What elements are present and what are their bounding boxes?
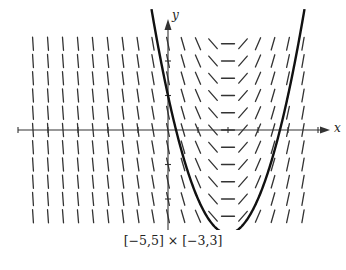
slope-segment [137, 106, 139, 119]
slope-segment [209, 91, 218, 101]
slope-segment [302, 55, 304, 68]
slope-segment [92, 89, 93, 102]
slope-segment [209, 194, 218, 204]
slope-segment [209, 39, 218, 49]
slope-segment [152, 158, 154, 171]
slope-segment [77, 55, 78, 68]
slope-segment [122, 193, 124, 206]
slope-segment [137, 158, 139, 171]
slope-segment [255, 72, 260, 84]
slope-segment [287, 141, 290, 154]
y-axis-label: y [172, 8, 179, 22]
slope-segment [77, 175, 78, 188]
slope-segment [48, 37, 49, 50]
slope-segment [122, 55, 124, 68]
slope-segment [137, 141, 139, 154]
slope-segment [92, 55, 93, 68]
slope-segment [77, 37, 78, 50]
slope-segment [92, 106, 93, 119]
slope-segment [209, 160, 218, 170]
slope-segment [77, 158, 78, 171]
slope-segment [181, 89, 185, 101]
slope-segment [195, 90, 200, 102]
slope-segment [195, 107, 200, 119]
slope-segment [255, 38, 260, 50]
slope-segment [48, 141, 49, 154]
slope-segment [122, 141, 124, 154]
slope-segment [33, 55, 34, 68]
slope-segment [181, 193, 185, 205]
slope-segment [271, 72, 275, 84]
slope-segment [62, 89, 63, 102]
slope-segment [302, 141, 304, 154]
slope-segment [302, 89, 304, 102]
slope-segment [209, 56, 218, 66]
slope-segment [107, 175, 108, 188]
slope-segment [152, 37, 154, 50]
slope-segment [181, 38, 185, 50]
slope-segment [77, 210, 78, 223]
slope-segment [195, 159, 200, 171]
slope-segment [302, 175, 304, 188]
slope-segment [62, 55, 63, 68]
slope-segment [107, 158, 108, 171]
slope-segment [33, 106, 34, 119]
slope-segment [302, 158, 304, 171]
slope-segment [33, 141, 34, 154]
slope-segment [122, 158, 124, 171]
slope-segment [77, 106, 78, 119]
slope-segment [239, 39, 248, 49]
slope-segment [271, 89, 275, 101]
slope-segment [209, 73, 218, 83]
slope-segment [107, 106, 108, 119]
slope-segment [92, 141, 93, 154]
slope-segment [137, 210, 139, 223]
slope-segment [62, 193, 63, 206]
slope-segment [137, 175, 139, 188]
slope-segment [137, 89, 139, 102]
slope-segment [195, 72, 200, 84]
slope-segment [239, 73, 248, 83]
slope-segment [92, 210, 93, 223]
slope-segment [92, 158, 93, 171]
slope-segment [152, 72, 154, 85]
slope-segment [152, 89, 154, 102]
slope-segment [122, 89, 124, 102]
slope-segment [195, 141, 200, 153]
slope-segment [33, 158, 34, 171]
slope-segment [92, 37, 93, 50]
slope-segment [181, 176, 185, 188]
slope-segment [137, 55, 139, 68]
slope-segment [122, 72, 124, 85]
slope-segment [33, 175, 34, 188]
slope-segment [152, 106, 154, 119]
slope-segment [271, 55, 275, 67]
slope-segment [122, 210, 124, 223]
slope-segment [287, 193, 290, 206]
slope-segment [239, 177, 248, 187]
slope-segment [33, 37, 34, 50]
slope-segment [122, 175, 124, 188]
slope-segment [287, 106, 290, 119]
slope-segment [137, 37, 139, 50]
slope-segment [287, 72, 290, 85]
slope-segment [195, 176, 200, 188]
slope-segment [209, 177, 218, 187]
slope-segment [239, 91, 248, 101]
slope-segment [152, 175, 154, 188]
slope-segment [239, 194, 248, 204]
slope-segment [33, 72, 34, 85]
slope-segment [92, 175, 93, 188]
slope-segment [152, 55, 154, 68]
slope-segment [152, 141, 154, 154]
slope-segment [92, 193, 93, 206]
slope-segment [287, 55, 290, 68]
slope-segment [302, 193, 304, 206]
slope-segment [137, 193, 139, 206]
slope-segment [107, 193, 108, 206]
slope-segment [271, 176, 275, 188]
slope-segment [255, 55, 260, 67]
figure-caption: [−5,5] × [−3,3] [0, 233, 346, 248]
slope-segment [255, 210, 260, 222]
slope-segment [239, 142, 248, 152]
